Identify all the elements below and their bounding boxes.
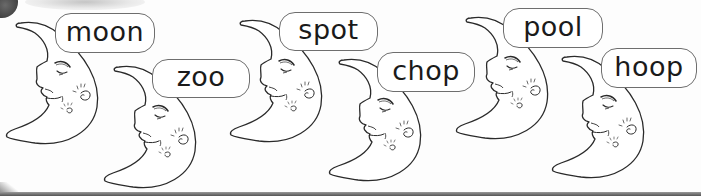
word-bubble-6: hoop — [601, 48, 697, 88]
exercise-number-badge — [0, 0, 18, 18]
word-bubble-1: moon — [55, 13, 155, 53]
word-label: spot — [298, 16, 358, 47]
word-label: moon — [66, 18, 144, 49]
word-label: hoop — [614, 53, 683, 84]
word-bubble-5: pool — [503, 8, 603, 48]
word-label: zoo — [177, 63, 226, 94]
word-label: pool — [523, 13, 583, 44]
decorative-smudge — [25, 0, 145, 10]
word-bubble-3: spot — [279, 12, 378, 51]
page-bottom-border — [0, 192, 701, 196]
word-label: chop — [392, 57, 460, 88]
worksheet-page: moon zoo spot chop pool hoop — [0, 0, 701, 196]
